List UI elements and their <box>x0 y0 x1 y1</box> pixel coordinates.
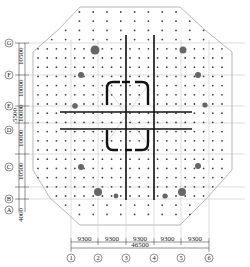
site-boundary <box>33 7 232 225</box>
row-axis-G: G <box>5 39 13 47</box>
svg-text:G: G <box>7 39 12 46</box>
svg-text:10000: 10000 <box>17 79 25 97</box>
svg-text:10000: 10000 <box>17 104 25 122</box>
column-axis-4: 4 <box>150 254 158 262</box>
svg-text:9300: 9300 <box>188 235 203 243</box>
column-axis-6: 6 <box>205 254 213 262</box>
svg-text:46500: 46500 <box>131 241 149 249</box>
svg-text:9300: 9300 <box>105 235 120 243</box>
column-axis-1: 1 <box>67 254 75 262</box>
beam-walls <box>60 35 192 200</box>
left-dimension-chain <box>15 43 29 212</box>
svg-text:B: B <box>7 195 12 202</box>
column-grid-lines <box>71 40 209 238</box>
row-axis-D: D <box>5 126 13 134</box>
svg-text:4000: 4000 <box>17 208 25 223</box>
svg-text:10500: 10500 <box>17 47 25 65</box>
column-axis-2: 2 <box>94 254 102 262</box>
svg-text:10500: 10500 <box>17 162 25 180</box>
row-axis-C: C <box>5 163 13 171</box>
column-axis-5: 5 <box>177 254 185 262</box>
row-axis-A: A <box>5 206 13 214</box>
svg-text:10000: 10000 <box>17 129 25 147</box>
row-axis-bubbles: G F E D C B A <box>5 39 13 214</box>
column-axis-bubbles: 1 2 3 4 5 6 <box>67 254 213 262</box>
pile-layout-drawing: 10500 10000 5500 10000 10000 10500 4000 … <box>0 0 250 267</box>
svg-text:5: 5 <box>179 254 182 261</box>
svg-text:E: E <box>7 102 11 109</box>
svg-text:2: 2 <box>96 254 99 261</box>
pile-dots <box>37 11 223 215</box>
svg-text:C: C <box>7 163 11 170</box>
svg-text:F: F <box>7 71 11 78</box>
row-axis-F: F <box>5 71 13 79</box>
left-dimension-text: 10500 10000 5500 10000 10000 10500 4000 <box>11 47 25 222</box>
row-axis-B: B <box>5 195 13 203</box>
bottom-dimension-text: 9300 9300 9300 9300 9300 46500 <box>78 235 203 249</box>
svg-text:A: A <box>7 206 12 213</box>
svg-text:9300: 9300 <box>78 235 93 243</box>
svg-text:D: D <box>7 126 12 133</box>
column-axis-3: 3 <box>122 254 130 262</box>
svg-text:3: 3 <box>124 254 127 261</box>
svg-text:1: 1 <box>69 254 72 261</box>
row-axis-E: E <box>5 102 13 110</box>
svg-text:9300: 9300 <box>161 235 176 243</box>
